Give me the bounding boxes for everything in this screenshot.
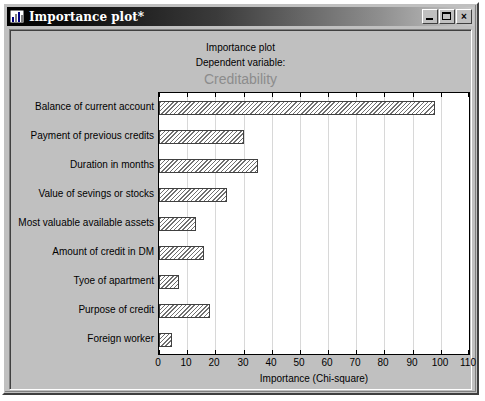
plot-window: Importance plot* × Importance plot Depen… [2,2,479,395]
x-tick-label: 110 [460,357,476,368]
bar-chart-icon [9,9,25,24]
category-label: Balance of current account [13,101,158,112]
window-title: Importance plot* [29,10,144,24]
category-label: Tyoe of apartment [13,275,158,286]
x-axis-title: Importance (Chi-square) [158,373,470,384]
axis-tick [215,93,216,97]
category-label: Value of sevings or stocks [13,188,158,199]
x-axis-tick-labels: 0102030405060708090100110 [158,357,470,371]
axis-tick [413,350,414,354]
window-controls: × [422,9,472,24]
x-tick-label: 70 [349,357,360,368]
axis-tick [244,93,245,97]
x-tick-label: 10 [180,357,191,368]
bar [159,333,172,347]
x-tick-label: 30 [237,357,248,368]
x-tick-label: 60 [321,357,332,368]
axis-tick [441,350,442,354]
axis-tick [272,350,273,354]
bar [159,130,244,144]
gridline [272,93,273,354]
axis-tick [356,93,357,97]
bar [159,159,258,173]
x-tick-label: 20 [208,357,219,368]
gridline [384,93,385,354]
close-button[interactable]: × [456,9,472,24]
dependent-variable-label: Creditability [10,71,471,87]
chart-title: Importance plot [10,42,471,53]
chart-content-panel: Importance plot Dependent variable: Cred… [9,29,472,390]
axis-tick [413,93,414,97]
axis-tick [384,93,385,97]
category-label: Payment of previous credits [13,130,158,141]
bar [159,188,227,202]
chart-subtitle: Dependent variable: [10,57,471,68]
gridline [469,93,470,354]
plot-area [158,92,470,355]
bar [159,217,196,231]
gridline [244,93,245,354]
axis-tick [244,350,245,354]
category-label: Duration in months [13,159,158,170]
axis-tick [356,350,357,354]
gridline [356,93,357,354]
minimize-icon [426,18,433,20]
axis-tick [328,350,329,354]
x-tick-label: 90 [406,357,417,368]
gridline [300,93,301,354]
x-tick-label: 0 [155,357,161,368]
axis-tick [384,350,385,354]
category-label: Purpose of credit [13,304,158,315]
category-axis-labels: Balance of current accountPayment of pre… [10,92,158,355]
x-tick-label: 40 [265,357,276,368]
axis-tick [215,350,216,354]
bar [159,304,210,318]
window-titlebar[interactable]: Importance plot* × [7,7,474,26]
gridline [413,93,414,354]
axis-tick [159,93,160,97]
axis-tick [300,350,301,354]
gridline [328,93,329,354]
minimize-button[interactable] [422,9,438,24]
x-tick-label: 50 [293,357,304,368]
gridline [441,93,442,354]
axis-tick [272,93,273,97]
axis-tick [441,93,442,97]
axis-tick [328,93,329,97]
close-icon: × [461,10,467,23]
bar [159,275,179,289]
axis-tick [187,93,188,97]
bar [159,101,435,115]
maximize-button[interactable] [439,9,455,24]
bar [159,246,204,260]
axis-tick [300,93,301,97]
category-label: Foreign worker [13,333,158,344]
maximize-icon [442,12,451,20]
axis-tick [187,350,188,354]
axis-tick [468,350,469,354]
x-tick-label: 80 [377,357,388,368]
x-tick-label: 100 [432,357,449,368]
category-label: Amount of credit in DM [13,246,158,257]
axis-tick [159,350,160,354]
axis-tick [468,93,469,97]
category-label: Most valuable available assets [13,217,158,228]
